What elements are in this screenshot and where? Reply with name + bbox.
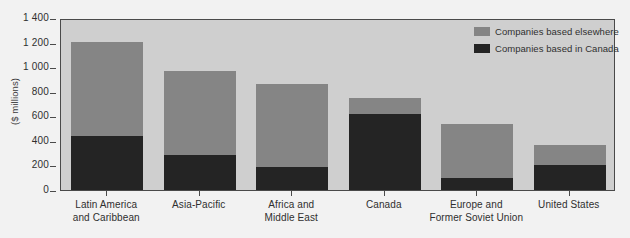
y-axis-tick-mark xyxy=(50,191,56,192)
y-axis-tick-label: 400 xyxy=(32,135,49,146)
x-axis-tick-label-line: Former Soviet Union xyxy=(416,212,536,225)
bar-group xyxy=(349,98,421,190)
bar-segment-canada xyxy=(164,155,236,190)
y-axis-title: ($ millions) xyxy=(9,52,20,152)
bar-group xyxy=(256,84,328,190)
y-axis-tick-mark xyxy=(50,19,56,20)
y-axis-tick-label: 200 xyxy=(32,159,49,170)
x-axis-tick-mark xyxy=(384,191,385,196)
bar-group xyxy=(441,124,513,190)
x-axis-tick-label: United States xyxy=(509,199,629,212)
bar-group xyxy=(164,71,236,190)
x-axis-tick-label-line: Middle East xyxy=(231,212,351,225)
y-axis-tick-mark xyxy=(50,44,56,45)
y-axis-tick-mark xyxy=(50,117,56,118)
bar-segment-elsewhere xyxy=(441,124,513,177)
chart-legend: Companies based elsewhereCompanies based… xyxy=(474,24,619,58)
bar-segment-canada xyxy=(256,167,328,190)
stacked-bar-chart: ($ millions) 02004006008001 0001 2001 40… xyxy=(0,0,630,238)
legend-label: Companies based elsewhere xyxy=(495,26,619,37)
y-axis-tick-label: 600 xyxy=(32,110,49,121)
bar-segment-canada xyxy=(441,178,513,190)
y-axis-tick-label: 1 200 xyxy=(23,37,49,48)
y-axis-tick-mark xyxy=(50,142,56,143)
legend-swatch xyxy=(474,27,490,36)
x-axis-tick-label-line: and Caribbean xyxy=(46,212,166,225)
bar-group xyxy=(534,145,606,190)
y-axis-tick-label: 1 000 xyxy=(23,61,49,72)
bar-segment-elsewhere xyxy=(164,71,236,155)
bar-segment-canada xyxy=(71,136,143,190)
x-axis-tick-mark xyxy=(569,191,570,196)
x-axis-tick-mark xyxy=(291,191,292,196)
y-axis-tick-label: 800 xyxy=(32,86,49,97)
legend-label: Companies based in Canada xyxy=(495,43,619,54)
x-axis-tick-label-line: United States xyxy=(509,199,629,212)
legend-item: Companies based elsewhere xyxy=(474,24,619,38)
bar-segment-elsewhere xyxy=(349,98,421,114)
bar-segment-elsewhere xyxy=(71,42,143,136)
bar-segment-elsewhere xyxy=(534,145,606,165)
bar-segment-canada xyxy=(349,114,421,190)
legend-swatch xyxy=(474,44,490,53)
y-axis-tick-mark xyxy=(50,68,56,69)
y-axis-tick-label: 1 400 xyxy=(23,12,49,23)
x-axis-tick-mark xyxy=(476,191,477,196)
bar-segment-canada xyxy=(534,165,606,190)
legend-item: Companies based in Canada xyxy=(474,41,619,55)
y-axis-tick-label: 0 xyxy=(43,184,49,195)
x-axis-tick-mark xyxy=(199,191,200,196)
x-axis-tick-mark xyxy=(106,191,107,196)
bar-group xyxy=(71,42,143,190)
bar-segment-elsewhere xyxy=(256,84,328,168)
y-axis-tick-mark xyxy=(50,93,56,94)
y-axis-tick-mark xyxy=(50,166,56,167)
